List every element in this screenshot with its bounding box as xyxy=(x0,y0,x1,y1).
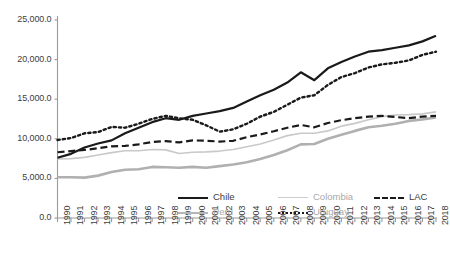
y-axis-tick-label: 5,000.0 xyxy=(0,172,52,182)
x-axis-tick-label: 2018 xyxy=(440,206,450,225)
y-axis-tick-label: 15,000.0 xyxy=(0,93,52,103)
legend-swatch-lac xyxy=(374,192,404,202)
legend-swatch-peru xyxy=(178,207,208,217)
x-axis-tick-label: 1994 xyxy=(116,206,126,225)
y-axis-tick-label: 20,000.0 xyxy=(0,54,52,64)
y-axis-tick-label: 25,000.0 xyxy=(0,14,52,24)
legend-label-uruguay: Uruguay xyxy=(313,206,349,217)
legend-swatch-uruguay xyxy=(278,207,308,217)
legend-swatch-chile xyxy=(178,192,208,202)
legend-item-peru: Peru xyxy=(178,205,233,218)
x-axis-tick-label: 1995 xyxy=(129,206,139,225)
y-axis-tick-label: 0.0 xyxy=(0,212,52,222)
x-axis-tick-label: 1993 xyxy=(102,206,112,225)
legend-item-lac: LAC xyxy=(374,190,427,203)
x-axis-tick-label: 1997 xyxy=(156,206,166,225)
legend-label-colombia: Colombia xyxy=(313,191,353,202)
legend-label-chile: Chile xyxy=(213,191,235,202)
x-axis-tick-label: 1992 xyxy=(89,206,99,225)
legend-item-chile: Chile xyxy=(178,190,235,203)
chart-legend: Chile Colombia LAC Peru Uruguay xyxy=(178,190,440,220)
legend-swatch-colombia xyxy=(278,192,308,202)
legend-label-lac: LAC xyxy=(409,191,427,202)
legend-label-peru: Peru xyxy=(213,206,233,217)
x-axis-tick-label: 1990 xyxy=(62,206,72,225)
x-axis-tick-label: 1991 xyxy=(75,206,85,225)
legend-item-uruguay: Uruguay xyxy=(278,205,349,218)
x-axis-tick-label: 1996 xyxy=(143,206,153,225)
y-axis-tick-label: 10,000.0 xyxy=(0,133,52,143)
legend-item-colombia: Colombia xyxy=(278,190,353,203)
series-line-colombia xyxy=(58,112,437,159)
series-line-chile xyxy=(58,36,437,158)
